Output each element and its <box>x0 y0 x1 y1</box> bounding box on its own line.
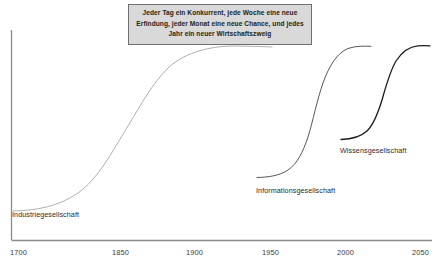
annotation-textbox: Jeder Tag ein Konkurrent, jede Woche ein… <box>128 4 312 45</box>
annotation-line-1: Jeder Tag ein Konkurrent, jede Woche ein… <box>133 8 307 19</box>
series-label-industriegesellschaft: Industriegesellschaft <box>12 210 79 219</box>
series-line-wissensgesellschaft <box>341 46 430 140</box>
series-label-informationsgesellschaft: Informationsgesellschaft <box>256 186 335 195</box>
x-tick-label-1950: 1950 <box>262 248 279 257</box>
chart-container: Jeder Tag ein Konkurrent, jede Woche ein… <box>0 0 439 266</box>
series-line-informationsgesellschaft <box>257 46 371 177</box>
x-tick-label-1900: 1900 <box>186 248 203 257</box>
series-label-wissensgesellschaft: Wissensgesellschaft <box>340 146 406 155</box>
x-tick-label-1850: 1850 <box>112 248 129 257</box>
series-line-industriegesellschaft <box>13 46 272 211</box>
x-tick-label-1700: 1700 <box>10 248 27 257</box>
x-tick-label-2000: 2000 <box>337 248 354 257</box>
annotation-line-2: Erfindung, jeder Monat eine neue Chance,… <box>133 19 307 30</box>
annotation-line-3: Jahr ein neuer Wirtschaftszweig <box>133 29 307 40</box>
x-tick-label-2050: 2050 <box>412 248 429 257</box>
